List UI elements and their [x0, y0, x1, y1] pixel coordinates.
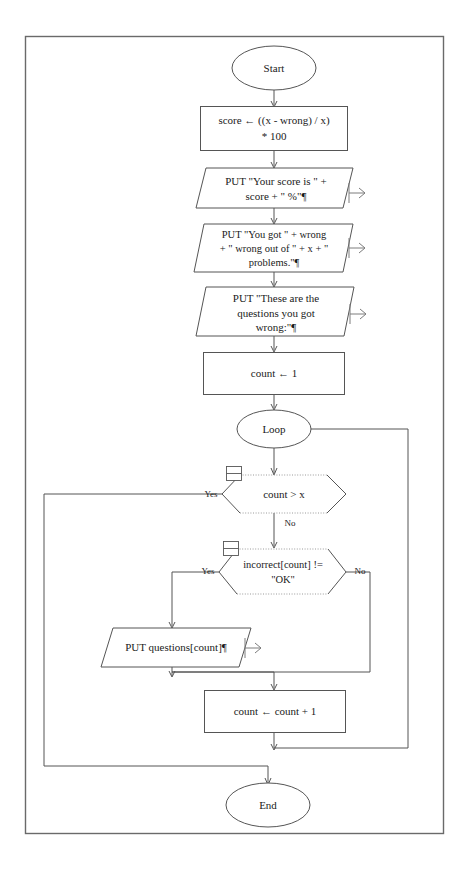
score-calc-line1: score ← ((x - wrong) / x) — [218, 114, 330, 127]
node-put-score[interactable]: PUT "Your score is " + score + " %"¶ — [196, 168, 365, 208]
put-score-line1: PUT "Your score is " + — [225, 175, 327, 187]
connector-merge-to-countinc — [172, 672, 274, 688]
put-wrong-line2: + " wrong out of " + x + " — [220, 243, 329, 254]
output-arrow-icon-put-score — [349, 183, 365, 203]
connector-incorrectyes-to-putquestion — [172, 572, 219, 626]
put-these-line2: questions you got — [237, 307, 315, 319]
node-put-wrong[interactable]: PUT "You got " + wrong + " wrong out of … — [194, 224, 365, 272]
decision-count-label: count > x — [263, 488, 305, 500]
score-calc-line2: * 100 — [262, 130, 287, 142]
count-inc-label: count ← count + 1 — [234, 705, 317, 717]
flowchart-svg: Start score ← ((x - wrong) / x) * 100 PU… — [0, 0, 470, 869]
start-label: Start — [264, 62, 285, 74]
node-put-these[interactable]: PUT "These are the questions you got wro… — [196, 287, 366, 336]
node-end[interactable]: End — [226, 783, 310, 827]
count-init-label: count ← 1 — [251, 367, 297, 379]
node-decision-incorrect[interactable]: incorrect[count] != "OK" Yes No — [201, 542, 366, 595]
note-icon-decision-incorrect — [224, 542, 239, 556]
node-count-init[interactable]: count ← 1 — [204, 353, 345, 395]
flowchart-canvas: Start score ← ((x - wrong) / x) * 100 PU… — [0, 0, 470, 869]
decision-count-yes-label: Yes — [204, 489, 218, 499]
put-question-label: PUT questions[count]¶ — [125, 641, 227, 653]
end-label: End — [259, 799, 277, 811]
output-arrow-icon-put-wrong — [349, 238, 365, 258]
put-wrong-line3: problems."¶ — [249, 257, 300, 268]
put-these-line3: wrong:"¶ — [256, 321, 297, 333]
note-icon-decision-count — [227, 467, 242, 481]
decision-incorrect-no-label: No — [355, 566, 366, 576]
decision-incorrect-yes-label: Yes — [201, 566, 215, 576]
node-loop[interactable]: Loop — [237, 410, 311, 448]
output-arrow-icon-put-these — [350, 304, 366, 324]
put-score-line2: score + " %"¶ — [246, 190, 307, 202]
decision-count-no-label: No — [285, 518, 296, 528]
node-score-calc[interactable]: score ← ((x - wrong) / x) * 100 — [201, 107, 348, 151]
decision-incorrect-line1: incorrect[count] != — [243, 559, 323, 570]
node-decision-count[interactable]: count > x Yes No — [204, 467, 346, 529]
loop-label: Loop — [262, 423, 286, 435]
node-count-inc[interactable]: count ← count + 1 — [205, 691, 346, 733]
put-these-line1: PUT "These are the — [233, 292, 320, 304]
decision-incorrect-line2: "OK" — [271, 574, 295, 585]
node-put-question[interactable]: PUT questions[count]¶ — [101, 628, 261, 667]
node-start[interactable]: Start — [232, 46, 316, 90]
put-wrong-line1: PUT "You got " + wrong — [222, 229, 327, 240]
